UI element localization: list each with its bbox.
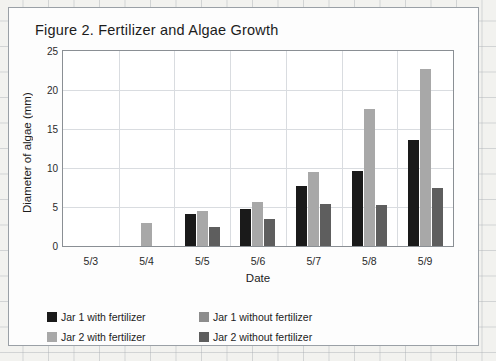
y-axis-tick-label: 15 [47, 124, 58, 135]
legend-swatch [47, 312, 57, 322]
bar-group [174, 51, 230, 246]
plot-area: 05101520255/35/45/55/65/75/85/9 Date [62, 50, 454, 247]
legend-item: Jar 1 with fertilizer [47, 308, 199, 325]
legend-item: Jar 1 without fertilizer [199, 308, 369, 325]
legend-label: Jar 1 without fertilizer [213, 311, 312, 323]
bar [432, 188, 443, 247]
legend-label: Jar 2 without fertilizer [213, 331, 312, 343]
bar [264, 219, 275, 246]
bar [141, 223, 152, 246]
bar [308, 172, 319, 246]
chart-legend: Jar 1 with fertilizerJar 1 without ferti… [47, 308, 369, 345]
bar [376, 205, 387, 246]
bar [352, 171, 363, 246]
x-axis-title: Date [63, 272, 453, 284]
chart-card: Figure 2. Fertilizer and Algae Growth Di… [8, 7, 479, 346]
bar [252, 202, 263, 246]
x-axis-tick-label: 5/9 [418, 255, 433, 267]
bar-group [63, 51, 119, 246]
y-axis-tick-label: 20 [47, 85, 58, 96]
bar [197, 211, 208, 246]
bar-group [230, 51, 286, 246]
legend-item: Jar 2 with fertilizer [47, 328, 199, 345]
x-axis-tick-label: 5/3 [84, 255, 99, 267]
bar [240, 209, 251, 246]
x-axis-tick-label: 5/5 [195, 255, 210, 267]
legend-item: Jar 2 without fertilizer [199, 328, 369, 345]
bar [296, 186, 307, 246]
bar [364, 109, 375, 246]
legend-swatch [47, 332, 57, 342]
bar [420, 69, 431, 246]
bar [209, 227, 220, 246]
y-axis-tick-label: 25 [47, 46, 58, 57]
bar-group [119, 51, 175, 246]
x-axis-tick-label: 5/6 [251, 255, 266, 267]
y-axis-tick-label: 5 [52, 202, 58, 213]
legend-swatch [199, 312, 209, 322]
y-axis-tick-label: 0 [52, 241, 58, 252]
bar-group [342, 51, 398, 246]
bar [320, 204, 331, 246]
x-axis-tick-label: 5/7 [306, 255, 321, 267]
bar [408, 140, 419, 246]
legend-swatch [199, 332, 209, 342]
bar-group [286, 51, 342, 246]
y-axis-tick-label: 10 [47, 163, 58, 174]
bar-group [397, 51, 453, 246]
plot-inner: 05101520255/35/45/55/65/75/85/9 [63, 51, 453, 246]
chart-title: Figure 2. Fertilizer and Algae Growth [35, 22, 279, 38]
x-axis-tick-label: 5/4 [139, 255, 154, 267]
legend-label: Jar 1 with fertilizer [61, 311, 146, 323]
legend-label: Jar 2 with fertilizer [61, 331, 146, 343]
bar [185, 214, 196, 246]
x-axis-tick-label: 5/8 [362, 255, 377, 267]
y-axis-title: Diameter of algae (mm) [21, 58, 37, 248]
